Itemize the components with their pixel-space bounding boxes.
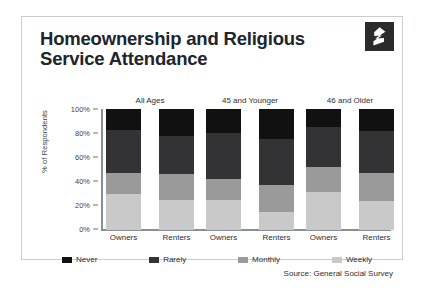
- x-axis-tick-label: Renters: [352, 233, 401, 242]
- bar-segment-monthly[interactable]: [159, 174, 194, 199]
- stacked-bar[interactable]: Owners: [106, 109, 141, 230]
- legend-swatch-never: [62, 257, 72, 263]
- title-line-2: Service Attendance: [40, 49, 340, 69]
- legend-swatch-monthly: [238, 257, 248, 263]
- bar-segment-weekly[interactable]: [159, 200, 194, 230]
- bar-segment-rarely[interactable]: [306, 127, 341, 167]
- zillow-z-logo: [365, 22, 394, 51]
- bar-segment-monthly[interactable]: [259, 185, 294, 212]
- title-line-1: Homeownership and Religious: [40, 28, 305, 49]
- source-note: Source: General Social Survey: [284, 269, 393, 278]
- legend-label: Weekly: [346, 255, 372, 264]
- bar-group: All AgesOwnersRenters: [106, 109, 194, 230]
- bar-segment-never[interactable]: [259, 109, 294, 139]
- bar-segment-rarely[interactable]: [206, 133, 241, 179]
- stacked-bar[interactable]: Renters: [359, 109, 394, 230]
- bar-segment-rarely[interactable]: [359, 131, 394, 173]
- legend-swatch-rarely: [149, 257, 159, 263]
- bar-segment-never[interactable]: [359, 109, 394, 131]
- x-axis-tick-label: Owners: [199, 233, 248, 242]
- y-axis-line: [101, 109, 103, 230]
- y-axis-tick-mark: [93, 157, 98, 158]
- y-axis-tick-label: 0%: [79, 225, 90, 234]
- bar-segment-never[interactable]: [106, 109, 141, 130]
- y-axis-tick: 40%: [52, 177, 98, 186]
- bar-group: 45 and YoungerOwnersRenters: [206, 109, 294, 230]
- y-axis-tick-mark: [93, 133, 98, 134]
- legend-label: Monthly: [252, 255, 280, 264]
- bar-segment-never[interactable]: [306, 109, 341, 127]
- legend-item[interactable]: Never: [62, 255, 97, 264]
- bar-segment-rarely[interactable]: [159, 136, 194, 175]
- y-axis-tick-mark: [93, 229, 98, 230]
- x-axis-tick-label: Renters: [252, 233, 301, 242]
- y-axis-tick-label: 40%: [75, 177, 90, 186]
- y-axis-tick-label: 20%: [75, 201, 90, 210]
- x-axis-tick-label: Renters: [152, 233, 201, 242]
- x-axis-tick-label: Owners: [299, 233, 348, 242]
- bar-segment-weekly[interactable]: [259, 212, 294, 230]
- y-axis-tick: 80%: [52, 129, 98, 138]
- y-axis-tick: 0%: [52, 225, 98, 234]
- bar-segment-weekly[interactable]: [106, 194, 141, 230]
- legend-label: Rarely: [163, 255, 186, 264]
- y-axis-tick: 20%: [52, 201, 98, 210]
- stacked-bar[interactable]: Owners: [206, 109, 241, 230]
- stacked-bar[interactable]: Owners: [306, 109, 341, 230]
- bar-segment-weekly[interactable]: [306, 192, 341, 230]
- bar-group-label: 45 and Younger: [206, 96, 294, 105]
- y-axis-tick: 100%: [52, 105, 98, 114]
- legend-label: Never: [76, 255, 97, 264]
- page-title: Homeownership and Religious Service Atte…: [40, 29, 340, 69]
- y-axis-tick-mark: [93, 109, 98, 110]
- bar-segment-never[interactable]: [206, 109, 241, 133]
- bar-group-label: All Ages: [106, 96, 194, 105]
- bar-segment-monthly[interactable]: [306, 167, 341, 192]
- y-axis-tick: 60%: [52, 153, 98, 162]
- bar-segment-rarely[interactable]: [259, 139, 294, 185]
- x-axis-tick-label: Owners: [99, 233, 148, 242]
- y-axis-tick-label: 60%: [75, 153, 90, 162]
- y-axis-tick-mark: [93, 181, 98, 182]
- bar-segment-never[interactable]: [159, 109, 194, 136]
- y-axis-tick-label: 80%: [75, 129, 90, 138]
- bar-segment-weekly[interactable]: [359, 201, 394, 230]
- bar-group-label: 46 and Older: [306, 96, 394, 105]
- bar-segment-monthly[interactable]: [359, 173, 394, 201]
- stacked-bar[interactable]: Renters: [259, 109, 294, 230]
- legend-swatch-weekly: [332, 257, 342, 263]
- chart-card: Homeownership and Religious Service Atte…: [21, 16, 403, 260]
- bar-segment-monthly[interactable]: [106, 173, 141, 194]
- y-axis-ticks: 100%80%60%40%20%0%: [52, 109, 98, 229]
- legend-item[interactable]: Rarely: [149, 255, 186, 264]
- legend-item[interactable]: Weekly: [332, 255, 372, 264]
- stacked-bar[interactable]: Renters: [159, 109, 194, 230]
- bar-segment-monthly[interactable]: [206, 179, 241, 200]
- bar-segment-weekly[interactable]: [206, 200, 241, 230]
- bar-group: 46 and OlderOwnersRenters: [306, 109, 394, 230]
- legend-item[interactable]: Monthly: [238, 255, 280, 264]
- y-axis-tick-mark: [93, 205, 98, 206]
- bar-groups: All AgesOwnersRenters45 and YoungerOwner…: [106, 109, 394, 230]
- y-axis-title: % of Respondents: [40, 94, 49, 190]
- chart-legend: NeverRarelyMonthlyWeekly: [62, 255, 372, 264]
- bar-segment-rarely[interactable]: [106, 130, 141, 174]
- chart-plot-area: % of Respondents 100%80%60%40%20%0% All …: [22, 87, 404, 261]
- y-axis-tick-label: 100%: [71, 105, 90, 114]
